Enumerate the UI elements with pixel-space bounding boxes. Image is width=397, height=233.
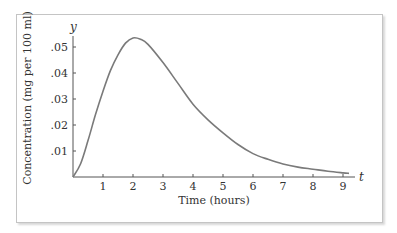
concentration-curve — [73, 38, 349, 177]
x-tick-label: 1 — [100, 180, 107, 193]
x-axis-label: Time (hours) — [178, 194, 250, 207]
x-tick-label: 3 — [160, 180, 167, 193]
y-axis-var: y — [69, 20, 77, 34]
y-tick-label: .01 — [51, 145, 69, 158]
x-tick-label: 4 — [190, 180, 197, 193]
x-tick-label: 9 — [340, 180, 347, 193]
y-axis-label: Concentration (mg per 100 ml) — [21, 11, 34, 185]
x-tick-label: 6 — [250, 180, 257, 193]
concentration-chart: 123456789.01.02.03.04.05 Concentration (… — [0, 0, 397, 233]
y-tick-label: .04 — [51, 67, 69, 80]
y-tick-label: .02 — [51, 119, 69, 132]
x-tick-label: 8 — [310, 180, 317, 193]
y-tick-label: .03 — [51, 93, 69, 106]
y-tick-label: .05 — [51, 41, 69, 54]
x-tick-label: 5 — [220, 180, 227, 193]
x-tick-label: 2 — [130, 180, 137, 193]
x-axis-var: t — [359, 170, 364, 184]
x-tick-label: 7 — [280, 180, 287, 193]
